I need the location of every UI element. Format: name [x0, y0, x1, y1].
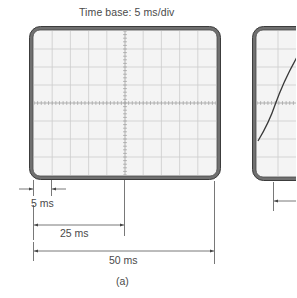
oscilloscope-time-base-diagram [0, 0, 296, 298]
dimension-label-5ms: 5 ms [31, 198, 54, 209]
time-base-title: Time base: 5 ms/div [79, 7, 174, 18]
dimension-right-partial [274, 182, 297, 211]
figure-caption: (a) [116, 276, 129, 287]
dimension-50ms [34, 181, 215, 264]
dimension-label-25ms: 25 ms [60, 228, 89, 239]
left-oscilloscope-screen [30, 27, 221, 180]
right-oscilloscope-screen [253, 27, 297, 181]
dimension-label-50ms: 50 ms [109, 255, 138, 266]
dimension-5ms [19, 180, 66, 196]
